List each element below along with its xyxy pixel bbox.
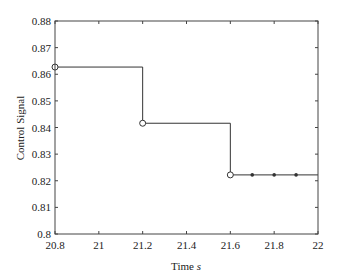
x-tick-label: 21.4 — [177, 239, 197, 251]
x-tick-label: 22 — [313, 239, 324, 251]
axes — [55, 21, 318, 234]
y-tick-label: 0.88 — [32, 15, 52, 27]
y-tick-label: 0.87 — [32, 42, 52, 54]
axes-frame — [55, 21, 318, 234]
x-tick-label: 21.2 — [133, 239, 152, 251]
x-tick-label: 20.8 — [45, 239, 65, 251]
y-tick-label: 0.82 — [32, 175, 51, 187]
y-tick-label: 0.85 — [32, 95, 52, 107]
open-circle-marker — [140, 120, 146, 126]
x-axis-ticks: 20.82121.221.421.621.822 — [45, 21, 323, 251]
filled-dot-marker — [294, 173, 298, 177]
y-axis-label: Control Signal — [14, 96, 26, 160]
open-circle-marker — [227, 172, 233, 178]
y-tick-label: 0.83 — [32, 148, 52, 160]
y-tick-label: 0.86 — [32, 68, 52, 80]
x-axis-label: Time s — [171, 260, 201, 272]
series-control-signal — [52, 64, 318, 178]
x-tick-label: 21 — [93, 239, 104, 251]
y-tick-label: 0.8 — [37, 228, 51, 240]
filled-dot-marker — [250, 173, 254, 177]
step-line — [55, 67, 318, 175]
step-chart: 20.82121.221.421.621.822 0.80.810.820.83… — [0, 0, 340, 280]
y-tick-label: 0.84 — [32, 122, 52, 134]
x-tick-label: 21.8 — [265, 239, 285, 251]
filled-dot-marker — [272, 173, 276, 177]
y-axis-ticks: 0.80.810.820.830.840.850.860.870.88 — [32, 15, 318, 240]
x-tick-label: 21.6 — [221, 239, 241, 251]
y-tick-label: 0.81 — [32, 201, 51, 213]
